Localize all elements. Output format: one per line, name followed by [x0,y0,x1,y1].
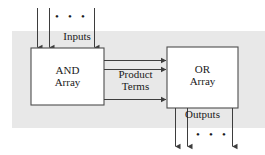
or-array-label-line2: Array [167,76,238,88]
product-terms-label: Product Terms [104,69,167,93]
inputs-ellipsis: • • • [55,10,88,22]
or-array-label: OR Array [167,64,238,88]
outputs-ellipsis: • • • [196,128,229,140]
inputs-label: Inputs [0,31,154,43]
and-array-label: AND Array [31,65,104,89]
pla-diagram-canvas: • • • Inputs AND Array OR Array Product … [0,0,265,155]
and-array-label-line2: Array [31,77,104,89]
product-terms-label-line2: Terms [104,81,167,93]
outputs-label: Outputs [140,109,265,121]
